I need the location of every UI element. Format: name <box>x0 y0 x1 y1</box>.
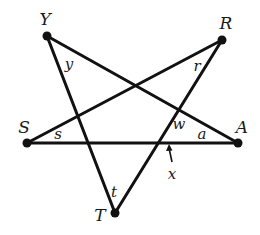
vertex-label-a: A <box>234 117 248 137</box>
arrowhead-icon <box>166 144 173 151</box>
angle-label-y: y <box>64 55 74 73</box>
vertex-label-r: R <box>219 13 233 33</box>
segment-ya <box>47 36 238 143</box>
angle-label-t: t <box>111 183 118 201</box>
diagram-svg: Y R S A T y r s t w a x <box>0 0 260 235</box>
vertex-dot-a <box>234 139 243 148</box>
angle-label-a: a <box>198 125 207 143</box>
x-pointer-arrow <box>166 144 173 162</box>
pentagram-diagram: Y R S A T y r s t w a x <box>0 0 260 235</box>
vertex-label-y: Y <box>39 9 52 29</box>
angle-label-x: x <box>168 165 177 183</box>
angle-label-w: w <box>173 115 186 133</box>
vertex-dot-y <box>43 32 52 41</box>
vertex-dot-t <box>111 209 120 218</box>
vertex-dot-s <box>23 139 32 148</box>
vertex-label-t: T <box>94 205 107 225</box>
angle-label-s: s <box>54 125 62 143</box>
vertex-dot-r <box>218 36 227 45</box>
vertex-label-s: S <box>18 117 30 137</box>
angle-label-r: r <box>193 57 201 75</box>
